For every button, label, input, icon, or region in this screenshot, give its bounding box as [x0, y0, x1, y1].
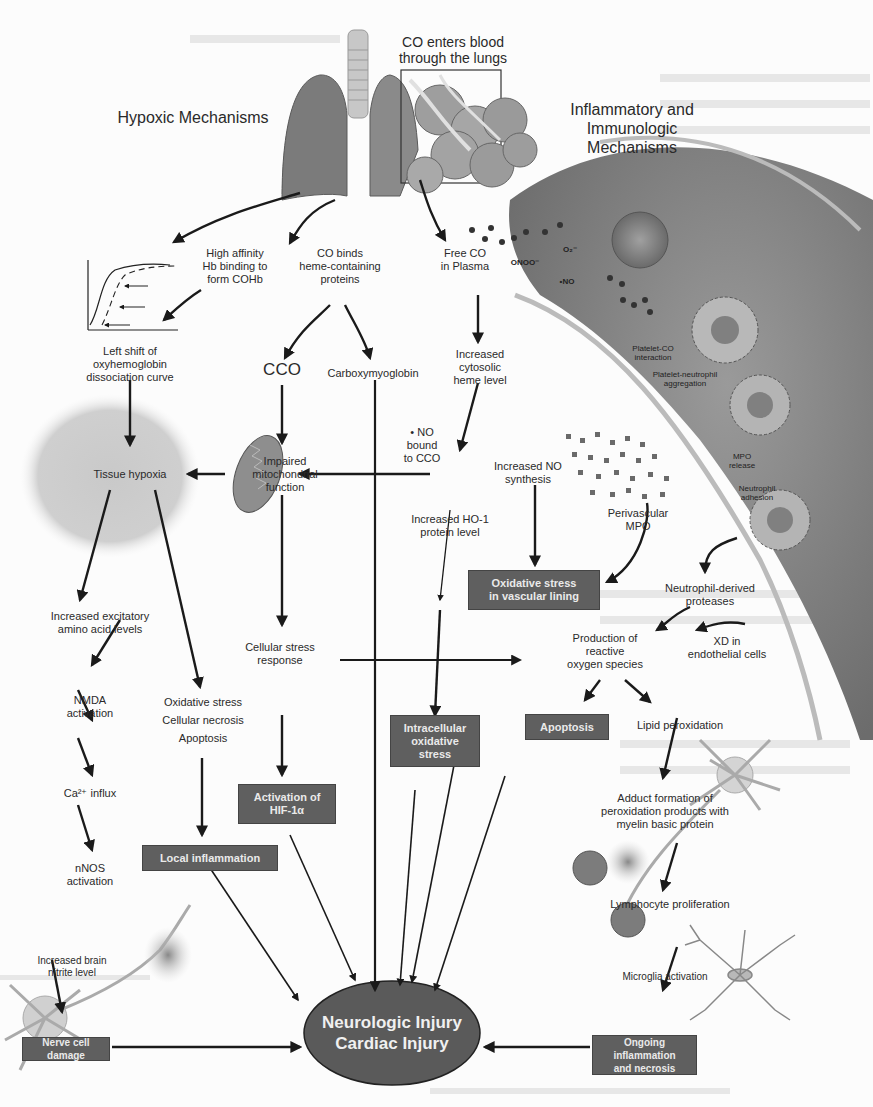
node-excitatory-amino-acids: Increased excitatory amino acid levels: [30, 610, 170, 636]
label-superoxide: O₂⁻: [560, 245, 580, 254]
node-impaired-mitochondrial: Impaired mitochondrial function: [245, 455, 325, 494]
label-mpo-release: MPO release: [717, 452, 767, 470]
node-carboxymyoglobin: Carboxymyoglobin: [318, 367, 428, 380]
node-increased-ho1: Increased HO-1 protein level: [400, 513, 500, 539]
node-nnos-activation: nNOS activation: [55, 862, 125, 888]
lymphocyte-glow: [606, 840, 650, 884]
node-increased-no-synthesis: Increased NO synthesis: [483, 460, 573, 486]
node-perivascular-mpo: Perivascular MPO: [598, 507, 678, 533]
trachea-illustration: [348, 30, 368, 118]
perivascular-mpo-particles: [566, 432, 669, 499]
outcome-neurologic-cardiac-injury: Neurologic Injury Cardiac Injury: [312, 1012, 472, 1054]
label-platelet-co-interaction: Platelet-CO interaction: [618, 344, 688, 362]
node-co-binds-heme: CO binds heme-containing proteins: [290, 247, 390, 286]
diagram-graphics: [0, 0, 873, 1107]
node-brain-nitrite: Increased brain nitrite level: [22, 955, 122, 979]
box-oxidative-stress-vascular: Oxidative stress in vascular lining: [468, 570, 600, 610]
node-ca-influx: Ca²⁺ influx: [50, 787, 130, 800]
title-hypoxic-mechanisms: Hypoxic Mechanisms: [98, 108, 288, 127]
box-nerve-cell-damage: Nerve cell damage: [22, 1037, 110, 1061]
co-poisoning-mechanism-diagram: CO enters blood through the lungs Hypoxi…: [0, 0, 873, 1107]
node-high-affinity-hb: High affinity Hb binding to form COHb: [195, 247, 275, 286]
title-co-enters-blood: CO enters blood through the lungs: [393, 34, 513, 66]
node-oxidative-necrosis-apoptosis: Oxidative stress Cellular necrosis Apopt…: [148, 693, 258, 747]
synapse-glow: [144, 927, 192, 983]
box-ongoing-inflammation-necrosis: Ongoing inflammation and necrosis: [592, 1035, 697, 1075]
node-reactive-oxygen-species: Production of reactive oxygen species: [555, 632, 655, 671]
node-cco: CCO: [252, 363, 312, 376]
node-xd-endothelial: XD in endothelial cells: [677, 635, 777, 661]
box-local-inflammation: Local inflammation: [142, 845, 278, 871]
label-platelet-neutrophil-aggregation: Platelet-neutrophil aggregation: [640, 370, 730, 388]
title-inflammatory-immunologic-mechanisms: Inflammatory and Immunologic Mechanisms: [552, 100, 712, 157]
node-tissue-hypoxia: Tissue hypoxia: [80, 468, 180, 481]
node-no-bound-cco: • NO bound to CCO: [400, 426, 444, 465]
node-nmda-activation: NMDA activation: [55, 694, 125, 720]
node-adduct-formation: Adduct formation of peroxidation product…: [595, 792, 735, 831]
alveoli-illustration: [401, 70, 537, 193]
node-cytosolic-heme: Increased cytosolic heme level: [440, 348, 520, 387]
left-lung-illustration: [282, 75, 347, 200]
node-lymphocyte-proliferation: Lymphocyte proliferation: [595, 898, 745, 911]
label-onoo: ONOO⁻: [505, 258, 545, 267]
node-neutrophil-proteases: Neutrophil-derived proteases: [650, 582, 770, 608]
node-lipid-peroxidation: Lipid peroxidation: [620, 719, 740, 732]
node-cellular-stress-response: Cellular stress response: [225, 641, 335, 667]
node-left-shift-curve: Left shift of oxyhemoglobin dissociation…: [75, 345, 185, 384]
label-neutrophil-adhesion: Neutrophil adhesion: [727, 484, 787, 502]
box-activation-hif1a: Activation of HIF-1α: [238, 784, 336, 824]
node-microglia-activation: Microglia activation: [600, 970, 730, 983]
node-free-co-plasma: Free CO in Plasma: [430, 247, 500, 273]
box-apoptosis: Apoptosis: [525, 714, 609, 740]
box-intracellular-oxidative-stress: Intracellular oxidative stress: [390, 715, 480, 767]
label-nitric-oxide: •NO: [552, 277, 582, 286]
lymphocyte-cell: [573, 851, 607, 885]
